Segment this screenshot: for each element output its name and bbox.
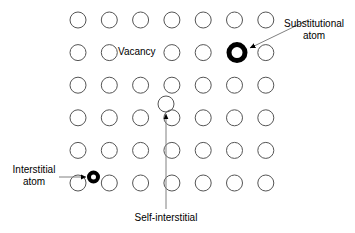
lattice-atom <box>133 12 149 28</box>
self-interstitial-atom <box>158 96 174 112</box>
lattice-atom <box>227 110 243 126</box>
lattice-atom <box>258 110 274 126</box>
substitutional-atom-label-line2: atom <box>303 30 325 41</box>
lattice-atom <box>133 110 149 126</box>
lattice-atom <box>133 175 149 191</box>
substitutional-atom-label-line1: Substitutional <box>284 18 344 29</box>
lattice-atom <box>101 12 117 28</box>
lattice-atom <box>70 142 86 158</box>
substitutional-atom-label: Substitutionalatom <box>277 18 351 42</box>
lattice-atom <box>133 77 149 93</box>
interstitial-atom <box>89 173 98 182</box>
lattice-atom <box>195 142 211 158</box>
lattice-atom <box>227 142 243 158</box>
defect-diagram: Vacancy Substitutionalatom Interstitiala… <box>0 0 355 233</box>
lattice-atom <box>258 45 274 61</box>
lattice-atom <box>101 77 117 93</box>
lattice-atom <box>258 77 274 93</box>
vacancy-label: Vacancy <box>118 46 156 58</box>
substitutional-atom <box>229 45 245 61</box>
interstitial-atom-label: Interstitialatom <box>4 164 64 188</box>
interstitial-atom-label-line2: atom <box>23 176 45 187</box>
lattice-atom <box>258 175 274 191</box>
lattice-atom <box>195 45 211 61</box>
lattice-atom <box>195 77 211 93</box>
lattice-atom <box>195 110 211 126</box>
lattice-atom <box>227 12 243 28</box>
lattice-atom <box>133 142 149 158</box>
lattice-atom <box>227 77 243 93</box>
lattice-atom <box>70 45 86 61</box>
lattice-atom <box>101 110 117 126</box>
self-interstitial-label: Self-interstitial <box>118 212 214 224</box>
interstitial-atom-label-line1: Interstitial <box>13 164 56 175</box>
lattice-atom <box>258 12 274 28</box>
lattice-atom <box>164 12 180 28</box>
defect-atom-group <box>89 45 245 182</box>
lattice-atom <box>101 175 117 191</box>
lattice-atom <box>227 175 243 191</box>
lattice-atom-group <box>70 12 274 191</box>
lattice-atom <box>70 12 86 28</box>
lattice-atom <box>70 110 86 126</box>
lattice-atom <box>164 45 180 61</box>
lattice-atom <box>70 77 86 93</box>
lattice-atom <box>258 142 274 158</box>
lattice-atom <box>101 142 117 158</box>
lattice-atom <box>195 175 211 191</box>
lattice-atom <box>101 45 117 61</box>
lattice-atom <box>195 12 211 28</box>
lattice-atom <box>164 77 180 93</box>
